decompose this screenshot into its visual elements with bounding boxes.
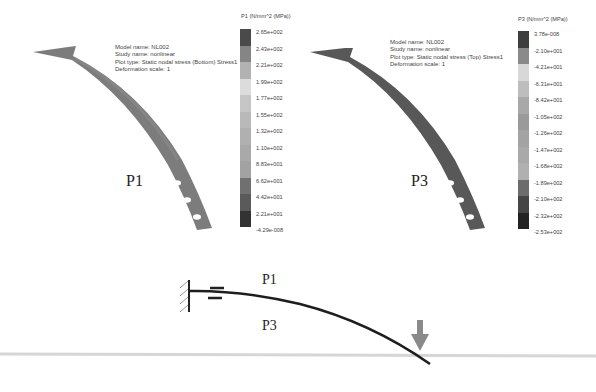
legend-band <box>518 64 529 81</box>
legend-tick-label: -4.21e+001 <box>534 64 562 70</box>
p1-model-name: Model name: NL002 <box>115 44 237 51</box>
legend-band <box>518 196 529 213</box>
p1-hole-3 <box>193 214 201 220</box>
p3-hole-3 <box>466 214 474 220</box>
legend-tick-label: 1.55e+002 <box>256 112 283 118</box>
legend-band <box>518 213 529 230</box>
legend-tick-label: -8.42e+001 <box>534 97 562 103</box>
legend-tick-label: -1.26e+002 <box>534 130 562 136</box>
legend-band <box>240 161 251 178</box>
legend-band <box>240 95 251 112</box>
legend-band <box>240 62 251 79</box>
cantilever-schematic <box>0 260 596 392</box>
legend-band <box>240 112 251 129</box>
p3-model-name: Model name: NL002 <box>390 39 503 46</box>
legend-band <box>518 163 529 180</box>
p1-deformation-scale: Deformation scale: 1 <box>115 66 237 73</box>
legend-tick-label: 1.77e+002 <box>256 95 283 101</box>
p3-legend-colorbar <box>518 31 529 229</box>
p3-plot-type: Plot type: Static nodal stress (Top) Str… <box>390 54 503 61</box>
legend-tick-label: 2.21e+002 <box>256 62 283 68</box>
p3-hole-2 <box>456 197 464 203</box>
legend-band <box>240 79 251 96</box>
load-arrow-icon <box>411 320 429 351</box>
p1-legend-title: P1 (N/mm^2 (MPa)) <box>241 13 291 19</box>
legend-tick-label: 8.83e+001 <box>256 161 283 167</box>
legend-band <box>240 46 251 63</box>
legend-tick-label: -6.31e+001 <box>534 81 562 87</box>
p3-spring-body <box>310 48 485 230</box>
legend-tick-label: 1.32e+002 <box>256 128 283 134</box>
legend-band <box>518 147 529 164</box>
legend-tick-label: -1.89e+002 <box>534 180 562 186</box>
p3-deformation-scale: Deformation scale: 1 <box>390 61 503 68</box>
legend-band <box>240 178 251 195</box>
legend-tick-label: -1.05e+002 <box>534 114 562 120</box>
p1-info-block: Model name: NL002 Study name: nonlinear … <box>115 44 237 74</box>
p1-study-name: Study name: nonlinear <box>115 51 237 58</box>
legend-band <box>518 114 529 131</box>
legend-band <box>518 81 529 98</box>
legend-tick-label: 4.42e+001 <box>256 194 283 200</box>
schematic-p1-label: P1 <box>262 272 277 288</box>
legend-tick-label: 6.62e+001 <box>256 178 283 184</box>
legend-tick-label: -2.10e+002 <box>534 196 562 202</box>
legend-band <box>518 130 529 147</box>
legend-tick-label: 3.78e-008 <box>534 31 559 37</box>
p1-legend-colorbar <box>240 29 251 227</box>
legend-tick-label: 2.43e+002 <box>256 46 283 52</box>
p1-hole-2 <box>183 197 191 203</box>
p1-spring-plot <box>0 0 300 260</box>
p3-hole-1 <box>446 180 454 186</box>
p3-study-name: Study name: nonlinear <box>390 46 503 53</box>
legend-band <box>518 180 529 197</box>
legend-tick-label: -2.53e+002 <box>534 229 562 235</box>
legend-tick-label: -1.68e+002 <box>534 163 562 169</box>
p3-info-block: Model name: NL002 Study name: nonlinear … <box>390 39 503 69</box>
legend-tick-label: 2.65e+002 <box>256 29 283 35</box>
p1-hole-1 <box>173 180 181 186</box>
p1-plot-type: Plot type: Static nodal stress (Bottom) … <box>115 59 237 66</box>
legend-band <box>518 48 529 65</box>
fixed-support-icon <box>180 280 189 312</box>
deflected-beam <box>189 291 430 364</box>
p1-label: P1 <box>126 172 143 190</box>
legend-tick-label: -2.32e+002 <box>534 213 562 219</box>
legend-band <box>240 194 251 211</box>
legend-tick-label: -4.29e-008 <box>256 227 283 233</box>
legend-tick-label: 1.99e+002 <box>256 79 283 85</box>
legend-band <box>518 97 529 114</box>
legend-band <box>240 128 251 145</box>
legend-band <box>240 29 251 46</box>
legend-tick-label: -1.47e+002 <box>534 147 562 153</box>
p3-legend-title: P3 (N/mm^2 (MPa)) <box>518 16 568 22</box>
ground-line <box>0 354 596 356</box>
legend-band <box>518 31 529 48</box>
legend-tick-label: -2.10e+001 <box>534 48 562 54</box>
p3-label: P3 <box>411 172 428 190</box>
schematic-p3-label: P3 <box>262 318 277 334</box>
legend-tick-label: 1.10e+002 <box>256 145 283 151</box>
legend-band <box>240 211 251 228</box>
legend-tick-label: 2.21e+001 <box>256 211 283 217</box>
legend-band <box>240 145 251 162</box>
